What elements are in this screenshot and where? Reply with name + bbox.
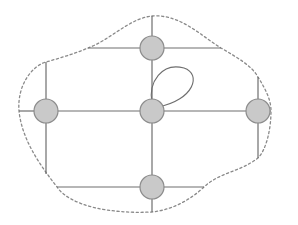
node-bottom bbox=[140, 175, 164, 199]
graph-diagram bbox=[0, 0, 298, 225]
node-center bbox=[140, 99, 164, 123]
node-top bbox=[140, 36, 164, 60]
node-right bbox=[246, 99, 270, 123]
nodes-group bbox=[34, 36, 270, 199]
node-left bbox=[34, 99, 58, 123]
